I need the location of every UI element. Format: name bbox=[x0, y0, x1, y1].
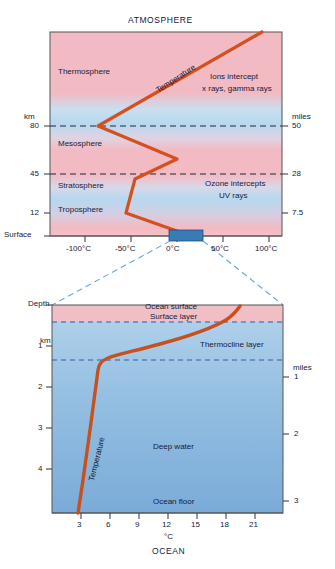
ocean-x-tick-21: 21 bbox=[249, 521, 258, 529]
atmosphere-x-tick-0: 0°C bbox=[166, 245, 179, 253]
atmosphere-left-tick-45: 45 bbox=[30, 170, 39, 178]
ocean-left-tick-4: 4 bbox=[38, 465, 42, 473]
ocean-label-thermocline: Thermocline layer bbox=[200, 341, 264, 349]
annotation-ions-line2: x rays, gamma rays bbox=[202, 85, 272, 93]
ocean-right-axis-unit: miles bbox=[293, 364, 312, 372]
atmosphere-x-tick-minus50: -50°C bbox=[115, 245, 136, 253]
ocean-right-tick-3: 3 bbox=[294, 497, 298, 505]
ocean-x-tick-6: 6 bbox=[106, 521, 110, 529]
layer-label-thermosphere: Thermosphere bbox=[58, 68, 110, 76]
atmosphere-right-axis-unit: miles bbox=[292, 113, 311, 121]
ocean-label-ocean-floor: Ocean floor bbox=[153, 498, 194, 506]
atmosphere-x-tick-50: 50°C bbox=[211, 245, 229, 253]
atmosphere-left-tick-12: 12 bbox=[30, 209, 39, 217]
ocean-x-tick-15: 15 bbox=[191, 521, 200, 529]
annotation-ozone-line2: UV rays bbox=[219, 192, 247, 200]
ocean-right-tick-2: 2 bbox=[294, 430, 298, 438]
annotation-ozone-line1: Ozone intercepts bbox=[205, 180, 265, 188]
ocean-title: OCEAN bbox=[152, 547, 185, 556]
atmosphere-left-tick-surface: Surface bbox=[4, 231, 32, 239]
layer-label-mesosphere: Mesosphere bbox=[58, 140, 102, 148]
ocean-x-tick-12: 12 bbox=[162, 521, 171, 529]
ocean-x-tick-9: 9 bbox=[135, 521, 139, 529]
atmosphere-x-tick-100: 100°C bbox=[255, 245, 277, 253]
ocean-label-surface-layer: Surface layer bbox=[150, 313, 197, 321]
ocean-label-deep-water: Deep water bbox=[153, 443, 194, 451]
atmosphere-right-tick-50: 50 bbox=[292, 122, 301, 130]
ocean-x-tick-18: 18 bbox=[220, 521, 229, 529]
ocean-left-tick-2: 2 bbox=[38, 383, 42, 391]
annotation-ions-line1: Ions intercept bbox=[210, 73, 258, 81]
ocean-x-tick-3: 3 bbox=[77, 521, 81, 529]
ocean-left-axis-title: Depth bbox=[28, 300, 49, 308]
ocean-range-marker bbox=[169, 230, 203, 241]
atmosphere-x-tick-minus100: -100°C bbox=[66, 245, 91, 253]
ocean-label-surface: Ocean surface bbox=[145, 303, 197, 311]
atmosphere-right-tick-28: 28 bbox=[292, 170, 301, 178]
layer-label-stratosphere: Stratosphere bbox=[58, 182, 104, 190]
ocean-panel bbox=[46, 305, 289, 519]
ocean-left-tick-1: 1 bbox=[38, 342, 42, 350]
atmosphere-right-tick-7-5: 7.5 bbox=[292, 209, 303, 217]
ocean-unit-label: °C bbox=[164, 533, 173, 541]
ocean-left-tick-3: 3 bbox=[38, 424, 42, 432]
layer-label-troposphere: Troposphere bbox=[58, 206, 103, 214]
temperature-profile-figure: ATMOSPHERE bbox=[0, 0, 335, 569]
atmosphere-left-axis-unit: km bbox=[24, 113, 35, 121]
ocean-right-tick-1: 1 bbox=[294, 373, 298, 381]
atmosphere-left-tick-80: 80 bbox=[30, 122, 39, 130]
